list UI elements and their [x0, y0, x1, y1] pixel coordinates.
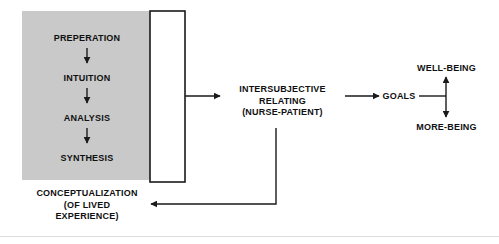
stage-label-synthesis: SYNTHESIS	[22, 153, 152, 165]
node-conceptualization: CONCEPTUALIZATION (OF LIVED EXPERIENCE)	[14, 188, 160, 223]
stage-label-analysis: ANALYSIS	[22, 113, 152, 125]
node-more-being: MORE-BEING	[404, 122, 489, 134]
diagram-canvas: PREPERATION INTUITION ANALYSIS SYNTHESIS…	[0, 0, 499, 244]
node-goals: GOALS	[378, 91, 420, 103]
stage-label-intuition: INTUITION	[22, 73, 152, 85]
stage-label-preperation: PREPERATION	[22, 33, 152, 45]
node-well-being: WELL-BEING	[404, 63, 489, 75]
node-intersubjective-relating: INTERSUBJECTIVE RELATING (NURSE-PATIENT)	[215, 84, 350, 119]
grouping-bracket	[150, 11, 185, 182]
